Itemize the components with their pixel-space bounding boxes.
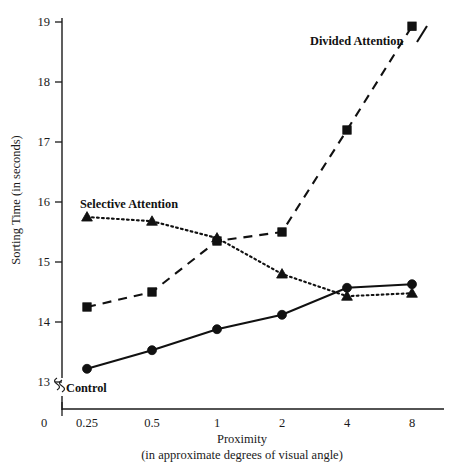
series-path	[87, 26, 412, 307]
y-tick-label-18: 18	[38, 75, 51, 89]
y-tick-label-17: 17	[38, 135, 51, 149]
series-divided-attention	[83, 22, 416, 311]
x-tick-label-3: 2	[279, 416, 285, 430]
series-path	[87, 284, 412, 369]
data-point-marker	[82, 212, 93, 221]
x-tick-label-2: 1	[214, 416, 220, 430]
x-tick-label-5: 8	[409, 416, 415, 430]
y-axis-break-icon	[55, 378, 60, 390]
data-point-marker	[343, 126, 351, 134]
y-tick-label-15: 15	[38, 255, 51, 269]
y-axis-ticks	[55, 22, 62, 382]
x-origin-label: 0	[41, 416, 47, 430]
data-point-marker	[408, 22, 416, 30]
data-point-marker	[148, 346, 157, 355]
y-tick-label-13: 13	[38, 375, 51, 389]
data-point-marker	[408, 280, 417, 289]
y-tick-label-14: 14	[38, 315, 51, 329]
data-point-marker	[277, 269, 288, 278]
series-control	[83, 280, 417, 374]
data-point-marker	[278, 228, 286, 236]
x-tick-label-1: 0.5	[144, 416, 160, 430]
x-axis-title: Proximity	[217, 432, 268, 446]
series-path	[87, 217, 412, 296]
data-point-marker	[278, 310, 287, 319]
x-tick-label-0: 0.25	[76, 416, 98, 430]
x-axis-subtitle: (in approximate degrees of visual angle)	[141, 448, 343, 462]
divided-attention-leader	[417, 26, 427, 42]
data-point-marker	[213, 325, 222, 334]
data-point-marker	[83, 303, 91, 311]
x-tick-label-4: 4	[344, 416, 351, 430]
data-point-marker	[148, 288, 156, 296]
y-axis-title: Sorting Time (in seconds)	[9, 135, 23, 265]
series-label-divided-attention: Divided Attention	[310, 34, 403, 48]
data-point-marker	[83, 364, 92, 373]
series-label-control: Control	[66, 381, 107, 395]
chart-plot-area: 13 14 15 16 17 18 19 0 0.25 0.5 1 2 4 8 …	[0, 0, 451, 465]
series-label-selective-attention: Selective Attention	[80, 197, 178, 211]
data-point-marker	[343, 283, 352, 292]
y-tick-label-16: 16	[38, 195, 51, 209]
chart-container: 13 14 15 16 17 18 19 0 0.25 0.5 1 2 4 8 …	[0, 0, 451, 465]
y-tick-label-19: 19	[38, 15, 51, 29]
